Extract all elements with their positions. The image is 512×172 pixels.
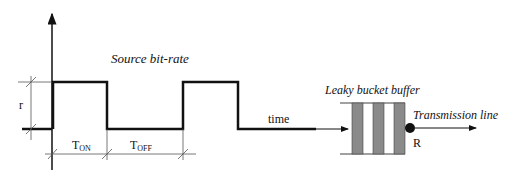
- transmission-line-label: Transmission line: [413, 109, 498, 121]
- leaky-bucket-diagram: Source bit-rate r TON TOFF time Leaky bu…: [0, 0, 512, 172]
- source-bit-rate-label: Source bit-rate: [111, 52, 189, 65]
- leaky-bucket-buffer: [340, 103, 405, 154]
- t-off-label: TOFF: [130, 139, 152, 153]
- output-node: [405, 123, 415, 133]
- rate-label: R: [413, 137, 421, 149]
- r-label: r: [19, 99, 23, 111]
- t-on-label: TON: [72, 139, 91, 153]
- r-dimension: [18, 76, 52, 140]
- time-dimension: [45, 129, 196, 160]
- time-label: time: [268, 113, 289, 125]
- buffer-label: Leaky bucket buffer: [325, 84, 420, 96]
